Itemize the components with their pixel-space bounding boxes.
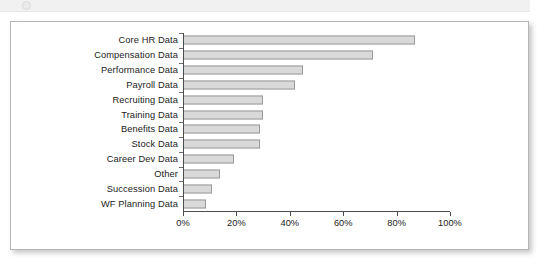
x-axis-tick [397, 212, 398, 216]
bar [183, 51, 373, 60]
bar [183, 66, 303, 75]
x-axis-tick-label: 100% [438, 218, 462, 228]
category-label: Core HR Data [118, 35, 178, 45]
x-axis-tick [290, 212, 291, 216]
bar [183, 80, 295, 89]
bar-row: Career Dev Data [11, 152, 528, 167]
category-label: Stock Data [132, 139, 178, 149]
category-label: Compensation Data [94, 50, 178, 60]
circle-icon [22, 1, 31, 10]
category-label: Career Dev Data [107, 154, 178, 164]
bar-row: Recruiting Data [11, 92, 528, 107]
category-label: Recruiting Data [112, 95, 178, 105]
bar [183, 155, 234, 164]
x-axis-tick [343, 212, 344, 216]
bar-row: Benefits Data [11, 122, 528, 137]
x-axis-tick [450, 212, 451, 216]
bar-row: Training Data [11, 107, 528, 122]
category-label: WF Planning Data [101, 199, 178, 209]
bar-row: WF Planning Data [11, 196, 528, 211]
category-label: Performance Data [101, 65, 178, 75]
category-label: Training Data [121, 110, 178, 120]
bar-row: Core HR Data [11, 33, 528, 48]
bar [183, 170, 220, 179]
bar-row: Performance Data [11, 63, 528, 78]
category-label: Benefits Data [121, 124, 178, 134]
x-axis-tick-label: 80% [387, 218, 406, 228]
x-axis-tick-label: 20% [227, 218, 246, 228]
bar [183, 140, 260, 149]
category-label: Payroll Data [126, 80, 178, 90]
y-axis-line [183, 33, 184, 211]
bar-chart-plot-area: Core HR DataCompensation DataPerformance… [11, 22, 528, 249]
x-axis-tick [236, 212, 237, 216]
bar-row: Succession Data [11, 181, 528, 196]
x-axis-tick [183, 212, 184, 216]
x-axis-line [183, 211, 450, 212]
bar [183, 184, 212, 193]
category-label: Succession Data [107, 184, 178, 194]
bar [183, 36, 415, 45]
bar-row: Payroll Data [11, 78, 528, 93]
bar [183, 95, 263, 104]
x-axis-tick-label: 40% [280, 218, 299, 228]
bar [183, 125, 260, 134]
category-label: Other [154, 169, 178, 179]
bar-row: Other [11, 167, 528, 182]
x-axis-tick-label: 0% [176, 218, 189, 228]
x-axis-tick-label: 60% [334, 218, 353, 228]
bar [183, 199, 206, 208]
bar-row: Stock Data [11, 137, 528, 152]
top-toolbar-strip [0, 0, 530, 12]
chart-rows: Core HR DataCompensation DataPerformance… [11, 33, 528, 211]
chart-figure-panel: Core HR DataCompensation DataPerformance… [10, 21, 529, 250]
bar-row: Compensation Data [11, 48, 528, 63]
bar [183, 110, 263, 119]
